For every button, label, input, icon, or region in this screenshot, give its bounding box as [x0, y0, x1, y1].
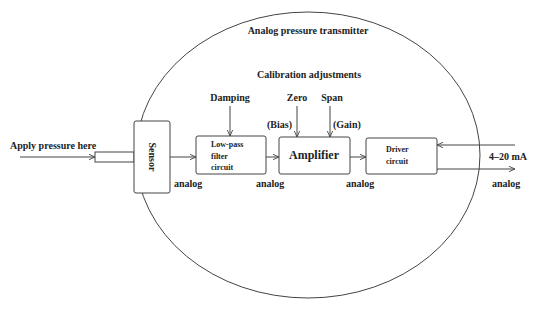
signal-label-output: analog: [492, 178, 520, 189]
signal-label-after-amplifier: analog: [346, 178, 374, 189]
lowpass-label-line1: Low-pass: [211, 140, 243, 149]
driver-label-line2: circuit: [386, 157, 408, 166]
pressure-port: [95, 152, 134, 162]
loop-current-label: 4–20 mA: [489, 151, 528, 162]
zero-label: Zero: [287, 92, 307, 103]
zero-bias-label: (Bias): [267, 119, 292, 131]
signal-label-after-filter: analog: [256, 178, 284, 189]
transmitter-diagram: Analog pressure transmitter Calibration …: [0, 0, 535, 310]
calibration-heading: Calibration adjustments: [257, 69, 361, 80]
damping-label: Damping: [210, 92, 249, 103]
diagram-title: Analog pressure transmitter: [248, 25, 369, 36]
driver-label-line1: Driver: [386, 145, 409, 154]
lowpass-label-line3: circuit: [211, 163, 233, 172]
amplifier-label: Amplifier: [289, 148, 340, 162]
sensor-label: Sensor: [147, 143, 158, 172]
span-gain-label: (Gain): [333, 119, 361, 131]
span-label: Span: [321, 92, 343, 103]
lowpass-label-line2: filter: [211, 152, 228, 161]
input-label: Apply pressure here: [10, 140, 97, 151]
signal-label-after-sensor: analog: [174, 178, 202, 189]
driver-circuit-block: [366, 138, 437, 174]
